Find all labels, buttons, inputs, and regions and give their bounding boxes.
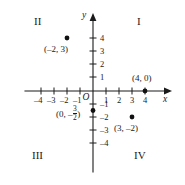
x-tick-label-4: 4: [143, 96, 147, 105]
x-tick-label-neg4: –4: [34, 96, 43, 105]
point-label-a: (–2, 3): [44, 45, 68, 54]
point-label-b: (4, 0): [132, 74, 152, 83]
y-tick-label-neg1: –1: [100, 100, 109, 109]
point-marker-a: [65, 36, 70, 41]
point-label-d: (3, –2): [114, 124, 138, 133]
point-marker-c: [91, 108, 96, 113]
quadrant-label-two: II: [34, 16, 41, 27]
quadrant-label-one: I: [137, 16, 141, 27]
point-marker-d: [130, 115, 135, 120]
point-marker-b: [143, 89, 148, 94]
x-tick-label-3: 3: [130, 96, 134, 105]
y-tick-label-neg4: –4: [100, 139, 109, 148]
point-label-c: (0, –32): [56, 105, 80, 122]
quadrant-label-three: III: [32, 150, 43, 161]
quadrant-label-four: IV: [134, 150, 146, 161]
y-tick-label-2: 2: [100, 60, 104, 69]
axes-and-ticks-graphic: [0, 0, 185, 185]
x-tick-label-2: 2: [117, 96, 121, 105]
point-label-c-close: ): [77, 109, 80, 119]
y-axis-arrowhead: [90, 13, 97, 21]
y-axis-label: y: [82, 11, 86, 21]
point-label-c-open: (0,: [56, 109, 68, 119]
y-tick-label-1: 1: [100, 73, 104, 82]
y-tick-label-neg2: –2: [100, 113, 109, 122]
x-tick-label-neg3: –3: [47, 96, 56, 105]
y-tick-label-3: 3: [100, 47, 104, 56]
x-tick-label-neg2: –2: [60, 96, 69, 105]
y-tick-label-4: 4: [100, 34, 104, 43]
origin-label: O: [83, 93, 90, 103]
y-tick-label-neg3: –3: [100, 126, 109, 135]
coordinate-plane-figure: II I III IV x y O –4 –3 –2 –1 1 2 3 4 4 …: [0, 0, 185, 185]
x-axis-label: x: [163, 95, 167, 105]
